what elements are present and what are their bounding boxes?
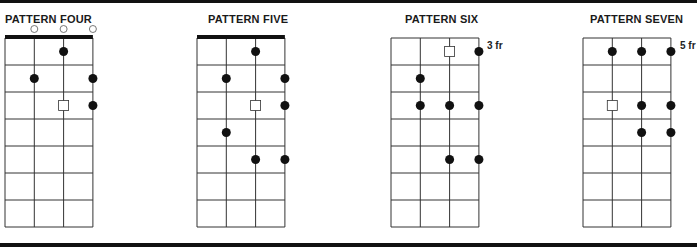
note-dot-icon bbox=[88, 101, 97, 110]
fretboard-diagrams bbox=[0, 0, 697, 247]
pattern-six-fret-label: 3 fr bbox=[487, 40, 503, 51]
note-dot-icon bbox=[222, 74, 231, 83]
root-note-square-icon bbox=[607, 101, 617, 111]
note-dot-icon bbox=[474, 155, 483, 164]
note-dot-icon bbox=[637, 101, 646, 110]
note-dot-icon bbox=[416, 74, 425, 83]
open-string-icon bbox=[60, 26, 67, 33]
note-dot-icon bbox=[637, 47, 646, 56]
note-dot-icon bbox=[280, 74, 289, 83]
pattern-five-nut bbox=[197, 35, 285, 39]
note-dot-icon bbox=[251, 155, 260, 164]
note-dot-icon bbox=[637, 128, 646, 137]
note-dot-icon bbox=[666, 128, 675, 137]
note-dot-icon bbox=[474, 47, 483, 56]
note-dot-icon bbox=[59, 47, 68, 56]
note-dot-icon bbox=[251, 47, 260, 56]
note-dot-icon bbox=[445, 155, 454, 164]
root-note-square-icon bbox=[59, 101, 69, 111]
note-dot-icon bbox=[608, 47, 617, 56]
note-dot-icon bbox=[280, 101, 289, 110]
bottom-border bbox=[0, 243, 697, 247]
note-dot-icon bbox=[280, 155, 289, 164]
open-string-icon bbox=[89, 26, 96, 33]
note-dot-icon bbox=[416, 101, 425, 110]
note-dot-icon bbox=[30, 74, 39, 83]
note-dot-icon bbox=[666, 47, 675, 56]
pattern-seven-fret-label: 5 fr bbox=[680, 40, 696, 51]
note-dot-icon bbox=[666, 101, 675, 110]
note-dot-icon bbox=[222, 128, 231, 137]
note-dot-icon bbox=[445, 101, 454, 110]
root-note-square-icon bbox=[251, 101, 261, 111]
note-dot-icon bbox=[474, 101, 483, 110]
open-string-icon bbox=[31, 26, 38, 33]
note-dot-icon bbox=[88, 74, 97, 83]
pattern-four-nut bbox=[5, 35, 93, 39]
root-note-square-icon bbox=[445, 47, 455, 57]
